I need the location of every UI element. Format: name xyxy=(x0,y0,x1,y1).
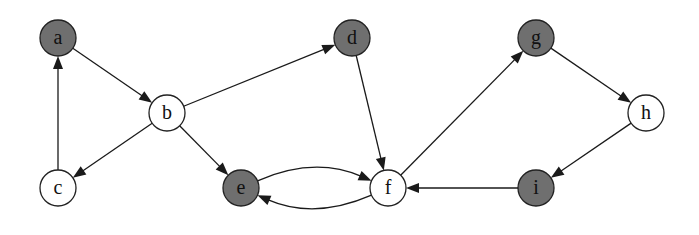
edge-h-i xyxy=(551,123,631,178)
edge-b-e xyxy=(180,126,229,175)
edge-f-e xyxy=(258,195,372,209)
node-c: c xyxy=(40,170,76,206)
edge-b-d xyxy=(184,45,336,106)
arrowhead-icon xyxy=(618,91,632,102)
node-label: c xyxy=(54,176,63,198)
arrowhead-icon xyxy=(376,157,386,171)
arrowhead-icon xyxy=(321,45,335,55)
node-label: b xyxy=(162,101,172,123)
edge-c-a xyxy=(53,56,63,170)
node-h: h xyxy=(628,95,664,131)
arrowhead-icon xyxy=(53,56,63,69)
edge-i-f xyxy=(406,183,518,193)
node-d: d xyxy=(334,20,370,56)
edge-d-f xyxy=(356,56,385,171)
node-label: g xyxy=(531,26,541,49)
nodes-layer: abcdefghi xyxy=(40,20,664,206)
node-label: e xyxy=(237,176,246,198)
node-e: e xyxy=(223,170,259,206)
directed-graph: abcdefghi xyxy=(0,0,699,235)
arrowhead-icon xyxy=(551,166,565,177)
edge-a-b xyxy=(73,48,152,103)
node-a: a xyxy=(40,20,76,56)
arrowhead-icon xyxy=(406,183,419,193)
node-i: i xyxy=(518,170,554,206)
arrowhead-icon xyxy=(358,171,372,181)
edge-f-g xyxy=(401,51,524,175)
node-label: i xyxy=(533,176,539,198)
node-f: f xyxy=(370,170,406,206)
node-label: d xyxy=(347,26,357,48)
arrowhead-icon xyxy=(139,91,153,102)
node-label: a xyxy=(54,26,63,48)
node-g: g xyxy=(518,20,554,56)
node-label: h xyxy=(641,101,651,123)
arrowhead-icon xyxy=(73,166,87,177)
edge-e-f xyxy=(258,167,372,181)
arrowhead-icon xyxy=(258,195,272,205)
edge-b-c xyxy=(73,123,152,178)
edge-g-h xyxy=(551,48,631,103)
node-label: f xyxy=(385,176,392,198)
node-b: b xyxy=(149,95,185,131)
